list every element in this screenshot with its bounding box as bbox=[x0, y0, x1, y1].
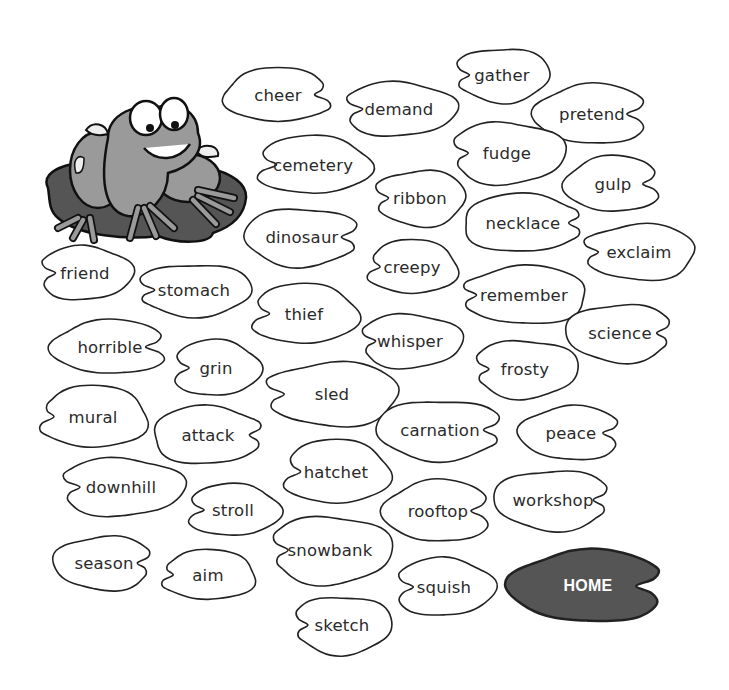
word-pad-thief[interactable]: thief bbox=[248, 282, 360, 346]
word-pad-rooftop[interactable]: rooftop bbox=[382, 478, 494, 544]
lily-pad-icon bbox=[56, 456, 186, 518]
word-pad-snowbank[interactable]: snowbank bbox=[266, 514, 394, 586]
word-pad-ribbon[interactable]: ribbon bbox=[372, 168, 468, 228]
word-pad-downhill[interactable]: downhill bbox=[56, 456, 186, 518]
word-pad-stomach[interactable]: stomach bbox=[134, 262, 254, 318]
lily-pad-icon bbox=[248, 282, 360, 346]
lily-pad-icon bbox=[50, 318, 170, 376]
lily-pad-icon bbox=[158, 548, 258, 602]
word-pad-frosty[interactable]: frosty bbox=[470, 338, 580, 400]
word-pad-season[interactable]: season bbox=[52, 534, 156, 592]
word-pad-creepy[interactable]: creepy bbox=[364, 238, 460, 296]
lily-pad-icon bbox=[564, 302, 676, 364]
lily-pad-icon bbox=[52, 534, 156, 592]
lily-pad-icon bbox=[340, 80, 458, 138]
lily-pad-icon bbox=[460, 192, 586, 254]
lily-pad-icon bbox=[492, 468, 614, 532]
home-lily-pad-icon bbox=[508, 548, 668, 624]
lily-pad-icon bbox=[372, 168, 468, 228]
lily-pad-icon bbox=[253, 134, 373, 196]
word-pad-sketch[interactable]: sketch bbox=[290, 594, 394, 656]
lily-pad-icon bbox=[580, 222, 698, 282]
game-board: cheerdemandgatherpretendcemeteryfudgerib… bbox=[0, 0, 729, 690]
lily-pad-icon bbox=[518, 404, 624, 462]
lily-pad-icon bbox=[470, 338, 580, 400]
word-pad-dinosaur[interactable]: dinosaur bbox=[242, 206, 362, 268]
word-pad-carnation[interactable]: carnation bbox=[374, 398, 506, 462]
word-pad-peace[interactable]: peace bbox=[518, 404, 624, 462]
word-pad-workshop[interactable]: workshop bbox=[492, 468, 614, 532]
word-pad-cheer[interactable]: cheer bbox=[222, 66, 334, 124]
lily-pad-icon bbox=[364, 238, 460, 296]
lily-pad-icon bbox=[290, 594, 394, 656]
word-pad-mural[interactable]: mural bbox=[36, 384, 150, 450]
word-pad-hatchet[interactable]: hatchet bbox=[280, 438, 392, 506]
word-pad-horrible[interactable]: horrible bbox=[50, 318, 170, 376]
word-pad-cemetery[interactable]: cemetery bbox=[253, 134, 373, 196]
word-pad-demand[interactable]: demand bbox=[340, 80, 458, 138]
lily-pad-icon bbox=[280, 438, 392, 506]
lily-pad-icon bbox=[36, 244, 134, 302]
word-pad-science[interactable]: science bbox=[564, 302, 676, 364]
word-pad-aim[interactable]: aim bbox=[158, 548, 258, 602]
word-pad-squish[interactable]: squish bbox=[392, 556, 496, 618]
lily-pad-icon bbox=[382, 478, 494, 544]
frog-mascot-icon bbox=[38, 78, 248, 248]
word-pad-necklace[interactable]: necklace bbox=[460, 192, 586, 254]
lily-pad-icon bbox=[242, 206, 362, 268]
home-button[interactable]: HOME bbox=[508, 548, 668, 624]
word-pad-exclaim[interactable]: exclaim bbox=[580, 222, 698, 282]
lily-pad-icon bbox=[266, 514, 394, 586]
lily-pad-icon bbox=[134, 262, 254, 318]
lily-pad-icon bbox=[374, 398, 506, 462]
lily-pad-icon bbox=[170, 338, 262, 398]
lily-pad-icon bbox=[392, 556, 496, 618]
lily-pad-icon bbox=[36, 384, 150, 450]
word-pad-friend[interactable]: friend bbox=[36, 244, 134, 302]
word-pad-grin[interactable]: grin bbox=[170, 338, 262, 398]
lily-pad-icon bbox=[222, 66, 334, 124]
